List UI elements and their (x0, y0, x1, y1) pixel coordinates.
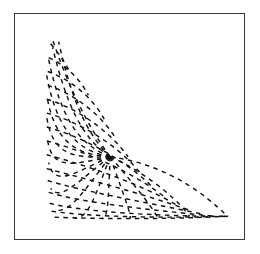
curvilinear-mesh-plot (15, 14, 244, 239)
mesh-curve-group (47, 40, 228, 219)
mesh-curve (110, 157, 189, 216)
mesh-curve (49, 60, 110, 157)
mesh-curve (51, 44, 69, 70)
mesh-curve (47, 117, 110, 157)
mesh-curve (48, 181, 204, 215)
mesh-curve (49, 192, 216, 216)
mesh-curve (49, 58, 89, 96)
mesh-curve (59, 42, 111, 157)
figure-frame (14, 13, 245, 240)
